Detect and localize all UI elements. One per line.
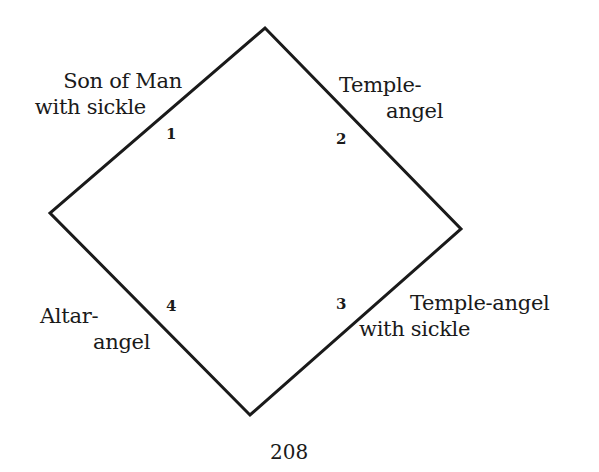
diagram-canvas: Son of Man with sickle 1 Temple- angel 2…: [0, 0, 599, 472]
label-altar-angel: Altar- angel: [40, 303, 150, 355]
label-son-of-man: Son of Man with sickle: [30, 68, 182, 120]
label-line: with sickle: [359, 316, 549, 342]
label-line: angel: [93, 329, 150, 355]
corner-number-4: 4: [166, 297, 176, 315]
label-temple-angel: Temple- angel: [339, 72, 443, 124]
corner-number-2: 2: [336, 130, 346, 148]
corner-number-3: 3: [336, 295, 346, 313]
label-temple-angel-with-sickle: Temple-angel with sickle: [359, 290, 549, 342]
label-line: Son of Man: [30, 68, 182, 94]
label-line: Temple-: [339, 72, 443, 98]
page-number: 208: [270, 440, 308, 464]
label-line: Temple-angel: [410, 290, 549, 316]
label-line: with sickle: [30, 94, 146, 120]
label-line: Altar-: [40, 303, 150, 329]
label-line: angel: [386, 98, 443, 124]
corner-number-1: 1: [166, 125, 176, 143]
